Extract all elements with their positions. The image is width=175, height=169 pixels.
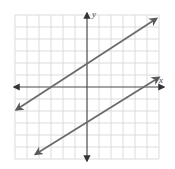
coordinate-plane: x y <box>0 0 175 169</box>
lower-line <box>35 77 159 154</box>
axes: x y <box>14 9 164 161</box>
y-axis-label: y <box>91 9 96 19</box>
x-axis-label: x <box>158 75 163 85</box>
